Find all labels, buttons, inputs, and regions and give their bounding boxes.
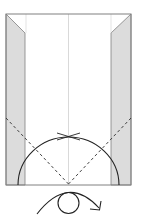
- origami-diagram: [0, 0, 145, 217]
- left-folded-flap: [6, 14, 25, 185]
- turn-over-icon: [37, 192, 101, 214]
- right-folded-flap: [111, 14, 131, 185]
